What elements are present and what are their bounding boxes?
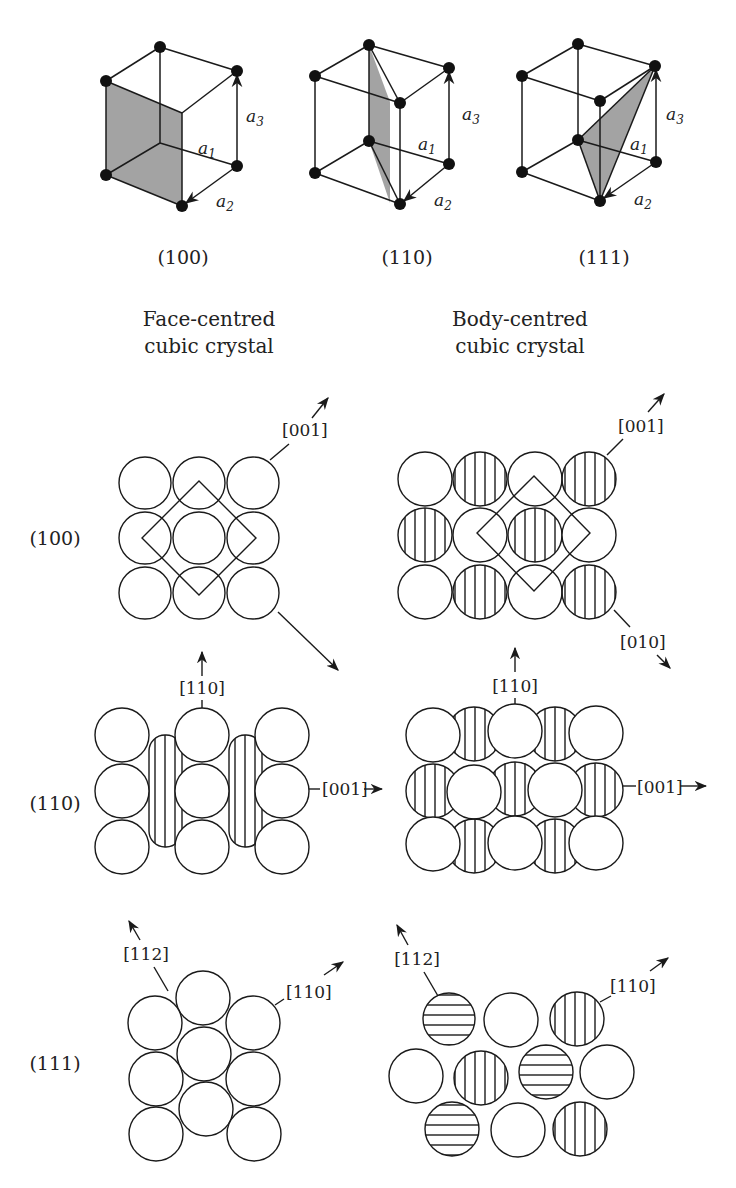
bcc-111-arrow-112 <box>397 925 408 945</box>
svg-text:a1: a1 <box>630 134 648 157</box>
svg-text:a2: a2 <box>216 191 234 214</box>
caption-110: (110) <box>381 246 432 268</box>
svg-text:a3: a3 <box>246 106 264 129</box>
svg-text:a2: a2 <box>434 190 452 213</box>
bcc-111-arrow-110 <box>650 958 668 971</box>
fcc-111-dir-110: [110] <box>286 982 332 1002</box>
crystal-planes-figure: a1 a2 a3 a1 a2 a3 <box>0 0 736 1188</box>
bcc-110-dir-001: [001] <box>637 777 683 797</box>
bcc-111-dir-110: [110] <box>610 976 656 996</box>
bcc-heading-line2: cubic crystal <box>455 334 585 358</box>
bcc-100-arrow-001 <box>648 394 664 412</box>
fcc-110-layer <box>95 700 320 874</box>
fcc-100-arrow-001 <box>312 398 328 418</box>
fcc-111-dir-112: [112] <box>123 944 169 964</box>
unit-cell-100 <box>100 41 243 212</box>
svg-text:a3: a3 <box>462 104 480 127</box>
svg-text:a2: a2 <box>634 189 652 212</box>
fcc-100-dir-001: [001] <box>282 420 328 440</box>
fcc-heading-line1: Face-centred <box>143 307 276 331</box>
unit-cell-111 <box>516 38 662 207</box>
bcc-100-dir-010: [010] <box>620 632 666 652</box>
bcc-100-layer <box>398 439 630 627</box>
fcc-111-arrow-112 <box>129 921 140 940</box>
bcc-111-layer <box>389 972 634 1157</box>
caption-111: (111) <box>578 246 629 268</box>
caption-100: (100) <box>157 246 208 268</box>
fcc-100-layer <box>119 444 338 670</box>
fcc-111-arrow-110 <box>324 962 343 975</box>
bcc-heading-line1: Body-centred <box>452 307 588 331</box>
fcc-110-dir-110: [110] <box>179 678 225 698</box>
fcc-111-layer <box>128 967 284 1161</box>
bcc-110-layer <box>406 698 636 873</box>
axis-labels-cube-100: a1 a2 a3 <box>198 106 264 214</box>
bcc-100-arrow-010 <box>657 655 670 668</box>
bcc-100-dir-001: [001] <box>618 416 664 436</box>
row-label-110: (110) <box>29 792 80 814</box>
svg-text:a3: a3 <box>666 104 684 127</box>
unit-cell-110 <box>309 39 455 210</box>
svg-text:a1: a1 <box>198 138 216 161</box>
svg-text:a1: a1 <box>418 134 436 157</box>
row-label-100: (100) <box>29 527 80 549</box>
bcc-111-dir-112: [112] <box>394 949 440 969</box>
fcc-heading-line2: cubic crystal <box>144 334 274 358</box>
row-label-111: (111) <box>29 1052 80 1074</box>
bcc-110-dir-110: [110] <box>492 676 538 696</box>
fcc-110-dir-001: [001] <box>322 779 368 799</box>
